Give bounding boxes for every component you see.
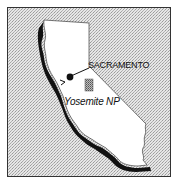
sacramento-label: SACRAMENTO — [88, 60, 149, 70]
yosemite-label: Yosemite NP — [64, 96, 120, 107]
park-square-icon — [85, 79, 93, 91]
city-dot-icon — [67, 74, 74, 81]
california-map — [0, 0, 180, 189]
